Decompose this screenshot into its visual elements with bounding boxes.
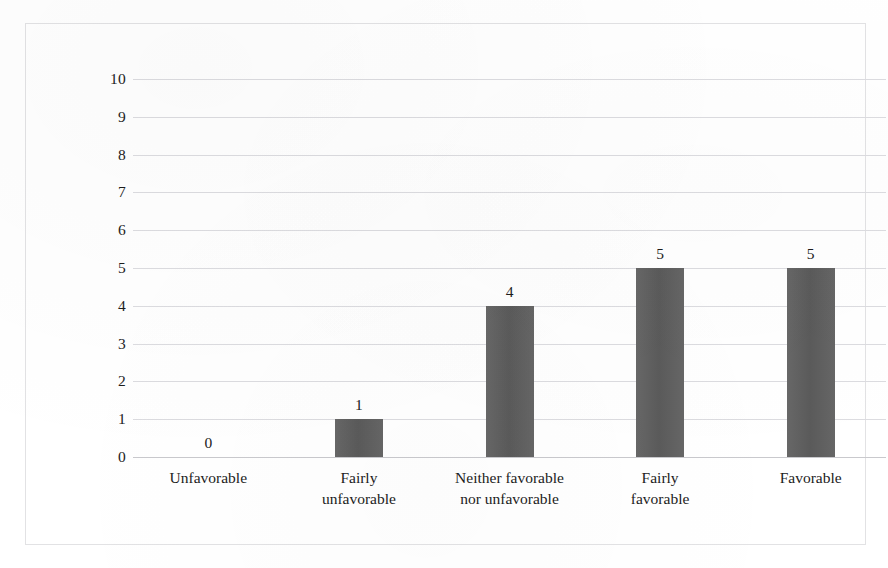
y-tick-label: 6 bbox=[81, 222, 126, 238]
bar-value-label: 1 bbox=[314, 397, 404, 413]
figure-root: Numbers of the participants 109876543210… bbox=[0, 0, 888, 568]
bar-value-label: 4 bbox=[465, 284, 555, 300]
bar-value-label: 5 bbox=[615, 246, 705, 262]
bar[interactable] bbox=[486, 306, 534, 457]
gridline bbox=[133, 230, 886, 231]
y-tick-label: 10 bbox=[81, 71, 126, 87]
gridline bbox=[133, 268, 886, 269]
x-tick-label-line: favorable bbox=[580, 488, 740, 509]
gridline bbox=[133, 155, 886, 156]
y-tick-label: 7 bbox=[81, 185, 126, 201]
bar-value-label: 5 bbox=[766, 246, 856, 262]
x-tick-label: Fairlyunfavorable bbox=[279, 467, 439, 509]
axis-baseline bbox=[133, 457, 886, 458]
x-tick-label: Neither favorablenor unfavorable bbox=[430, 467, 590, 509]
y-tick-label: 9 bbox=[81, 109, 126, 125]
figure-frame: Numbers of the participants 109876543210… bbox=[25, 23, 866, 545]
y-tick-label: 0 bbox=[81, 449, 126, 465]
gridline bbox=[133, 79, 886, 80]
plot-area: 01455 bbox=[133, 79, 886, 457]
bar[interactable] bbox=[787, 268, 835, 457]
y-tick-label: 8 bbox=[81, 147, 126, 163]
y-tick-label: 5 bbox=[81, 260, 126, 276]
y-tick-label: 1 bbox=[81, 411, 126, 427]
x-tick-label: Unfavorable bbox=[128, 467, 288, 488]
bar[interactable] bbox=[636, 268, 684, 457]
bar[interactable] bbox=[335, 419, 383, 457]
x-tick-label-line: nor unfavorable bbox=[430, 488, 590, 509]
y-tick-label: 2 bbox=[81, 374, 126, 390]
x-tick-label: Favorable bbox=[731, 467, 888, 488]
gridline bbox=[133, 192, 886, 193]
y-tick-label: 4 bbox=[81, 298, 126, 314]
x-axis-tick-labels: UnfavorableFairlyunfavorableNeither favo… bbox=[133, 467, 886, 537]
x-tick-label-line: Fairly bbox=[580, 467, 740, 488]
gridline bbox=[133, 117, 886, 118]
x-tick-label: Fairlyfavorable bbox=[580, 467, 740, 509]
bar-value-label: 0 bbox=[163, 435, 253, 451]
x-tick-label-line: unfavorable bbox=[279, 488, 439, 509]
y-axis-tick-labels: 109876543210 bbox=[81, 79, 126, 457]
x-tick-label-line: Fairly bbox=[279, 467, 439, 488]
y-tick-label: 3 bbox=[81, 336, 126, 352]
x-tick-label-line: Favorable bbox=[731, 467, 888, 488]
x-tick-label-line: Unfavorable bbox=[128, 467, 288, 488]
x-tick-label-line: Neither favorable bbox=[430, 467, 590, 488]
